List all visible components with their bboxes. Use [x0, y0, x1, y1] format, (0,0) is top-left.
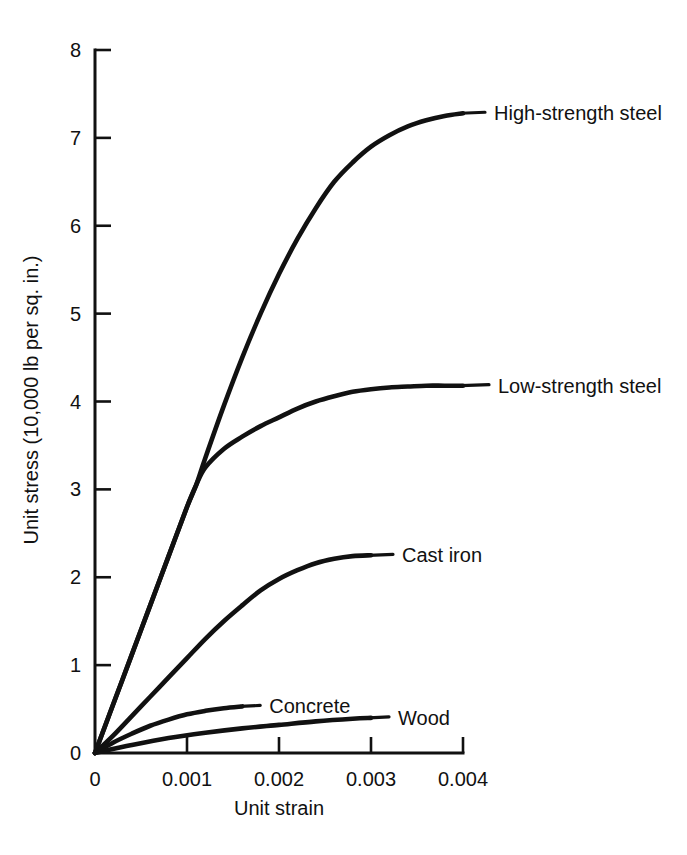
leader-line: [369, 554, 393, 555]
stress-strain-figure: 012345678 00.0010.0020.0030.004 High-str…: [0, 0, 687, 855]
leader-line: [240, 705, 260, 706]
y-tick-label: 8: [70, 39, 81, 61]
series-label-concrete: Concrete: [269, 695, 350, 717]
x-tick-label: 0: [89, 768, 100, 790]
y-tick-label: 4: [70, 391, 81, 413]
y-tick-label: 0: [70, 742, 81, 764]
y-tick-label: 1: [70, 654, 81, 676]
y-tick-label: 2: [70, 566, 81, 588]
leader-line: [461, 112, 485, 113]
x-tick-label: 0.001: [162, 768, 212, 790]
x-axis-tick-labels: 00.0010.0020.0030.004: [89, 768, 488, 790]
y-tick-label: 3: [70, 478, 81, 500]
y-tick-label: 7: [70, 127, 81, 149]
curve-cast-iron: [95, 555, 371, 753]
y-tick-label: 5: [70, 303, 81, 325]
stress-strain-chart: 012345678 00.0010.0020.0030.004 High-str…: [0, 0, 687, 855]
y-tick-label: 6: [70, 215, 81, 237]
series-annotations: High-strength steelLow-strength steelCas…: [240, 102, 662, 729]
leader-line: [461, 385, 489, 386]
series-label-wood: Wood: [398, 707, 450, 729]
y-axis-title: Unit stress (10,000 lb per sq. in.): [20, 255, 42, 544]
series-label-high-strength-steel: High-strength steel: [494, 102, 662, 124]
series-label-cast-iron: Cast iron: [402, 544, 482, 566]
data-curves: [95, 113, 463, 753]
leader-line: [369, 717, 389, 718]
axes: [95, 50, 463, 753]
axis-lines: [95, 50, 463, 753]
x-axis-ticks: [187, 737, 463, 753]
x-axis-title: Unit strain: [234, 797, 324, 819]
x-tick-label: 0.003: [346, 768, 396, 790]
curve-high-strength-steel: [95, 113, 463, 753]
series-label-low-strength-steel: Low-strength steel: [498, 375, 661, 397]
y-axis-ticks: [95, 50, 111, 665]
x-tick-label: 0.002: [254, 768, 304, 790]
x-tick-label: 0.004: [438, 768, 488, 790]
curve-wood: [95, 718, 371, 753]
y-axis-tick-labels: 012345678: [70, 39, 81, 764]
